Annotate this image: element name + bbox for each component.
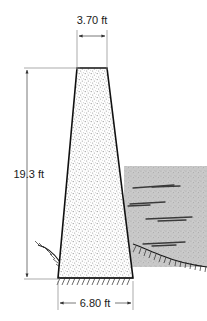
backfill-soil-region [124,166,207,267]
backfill-fill [124,166,207,267]
retaining-wall-body [58,68,133,278]
diagram-canvas: 3.70 ft 19.3 ft 6.80 ft [0,0,207,321]
top-width-dimension [77,30,107,70]
top-width-label: 3.70 ft [77,14,108,26]
wall-base-ground-hatch [57,278,133,285]
retaining-wall-diagram: 3.70 ft 19.3 ft 6.80 ft [0,0,207,321]
wall-section-outline [58,68,133,278]
height-label: 19.3 ft [13,168,44,180]
base-width-label: 6.80 ft [80,297,111,309]
